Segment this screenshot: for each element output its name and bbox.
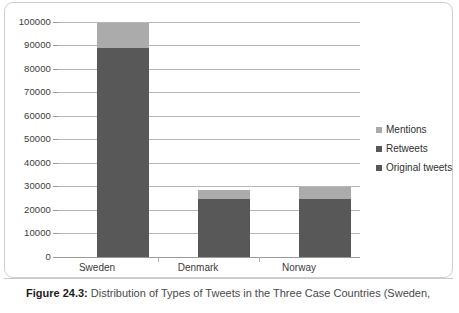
y-tick-label: 20000	[3, 205, 51, 214]
bar-denmark[interactable]	[198, 190, 250, 257]
y-tick-label: 60000	[3, 111, 51, 120]
bar-segment-mentions	[299, 187, 351, 199]
legend-label: Retweets	[386, 143, 428, 154]
y-tick-label: 40000	[3, 158, 51, 167]
legend-item-original-tweets[interactable]: Original tweets	[376, 158, 452, 177]
x-tick-label-norway: Norway	[254, 262, 344, 273]
legend-item-mentions[interactable]: Mentions	[376, 120, 452, 139]
x-tick-label-sweden: Sweden	[52, 262, 142, 273]
bar-segment-mentions	[97, 23, 149, 48]
legend-swatch-icon	[376, 127, 382, 133]
y-tick-label: 100000	[3, 17, 51, 26]
legend-swatch-icon	[376, 146, 382, 152]
x-tick-label-denmark: Denmark	[153, 262, 243, 273]
y-axis-labels: 100000 90000 80000 70000 60000 50000 400…	[0, 0, 51, 278]
bar-segment-retweets-original	[97, 48, 149, 257]
caption-divider	[4, 278, 453, 279]
y-tick-label: 30000	[3, 181, 51, 190]
plot-area	[58, 22, 360, 257]
figure-caption-text: Distribution of Types of Tweets in the T…	[88, 287, 430, 299]
y-tick-label: 70000	[3, 87, 51, 96]
bar-segment-retweets-original	[198, 199, 250, 257]
y-tick-label: 50000	[3, 134, 51, 143]
y-tick-label: 90000	[3, 40, 51, 49]
y-tick-label: 10000	[3, 228, 51, 237]
bar-norway[interactable]	[299, 187, 351, 257]
y-tick-label: 0	[3, 252, 51, 261]
chart-legend: Mentions Retweets Original tweets	[376, 120, 452, 177]
figure-caption: Figure 24.3: Distribution of Types of Tw…	[26, 286, 446, 301]
legend-item-retweets[interactable]: Retweets	[376, 139, 452, 158]
bar-segment-mentions	[198, 190, 250, 199]
y-tick-label: 80000	[3, 64, 51, 73]
figure-page: 100000 90000 80000 70000 60000 50000 400…	[0, 0, 459, 313]
stacked-bar-chart: 100000 90000 80000 70000 60000 50000 400…	[0, 0, 459, 278]
bar-sweden[interactable]	[97, 23, 149, 257]
legend-label: Original tweets	[386, 162, 452, 173]
x-axis-line	[58, 257, 360, 258]
bar-segment-retweets-original	[299, 199, 351, 257]
legend-label: Mentions	[386, 124, 427, 135]
figure-caption-label: Figure 24.3:	[26, 287, 88, 299]
legend-swatch-icon	[376, 165, 382, 171]
